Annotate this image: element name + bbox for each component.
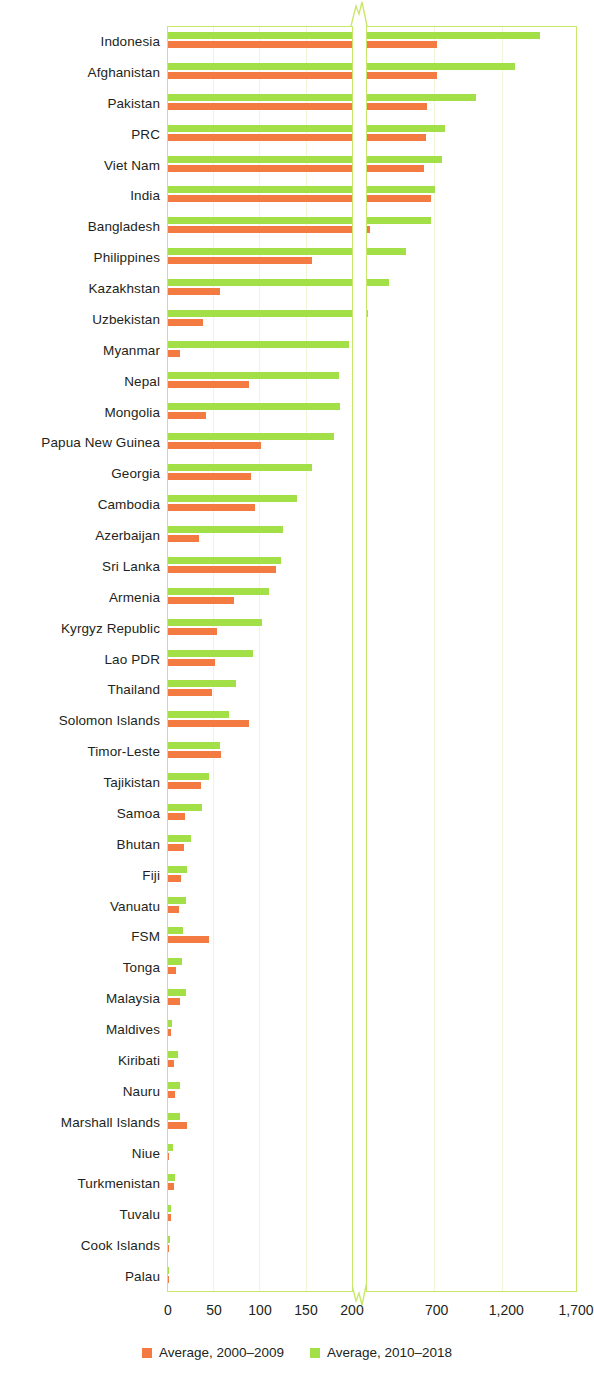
bar-series1 <box>367 103 427 110</box>
category-label: Timor-Leste <box>0 736 160 767</box>
bar-row <box>168 428 352 459</box>
category-axis-labels: IndonesiaAfghanistanPakistanPRCViet NamI… <box>0 26 160 1292</box>
bar-series2 <box>168 1051 178 1058</box>
bar-series2 <box>168 63 352 70</box>
bar-series2 <box>168 1174 175 1181</box>
legend-item: Average, 2010–2018 <box>310 1345 452 1360</box>
bar-series1 <box>168 257 312 264</box>
bar-row <box>367 521 576 552</box>
bar-row <box>367 1231 576 1262</box>
bar-series2 <box>168 680 236 687</box>
category-label: Uzbekistan <box>0 304 160 335</box>
bar-series1 <box>168 844 184 851</box>
legend-label: Average, 2010–2018 <box>327 1345 452 1360</box>
bar-row <box>168 151 352 182</box>
bar-series1 <box>168 412 206 419</box>
bar-row <box>367 151 576 182</box>
bar-series2 <box>168 495 297 502</box>
bar-series1 <box>168 350 180 357</box>
bar-series2 <box>168 526 283 533</box>
category-label: Nepal <box>0 366 160 397</box>
bar-row <box>367 614 576 645</box>
category-label: Palau <box>0 1261 160 1292</box>
bar-series1 <box>168 319 203 326</box>
bar-series2 <box>168 897 186 904</box>
bar-row <box>168 861 352 892</box>
bar-series1 <box>168 41 352 48</box>
category-label: Philippines <box>0 242 160 273</box>
bar-row <box>168 1231 352 1262</box>
bar-series2 <box>168 1236 170 1243</box>
bar-series1 <box>168 103 352 110</box>
bar-row <box>168 1108 352 1139</box>
bar-row <box>168 1015 352 1046</box>
bar-series2 <box>168 1020 172 1027</box>
bar-row <box>168 583 352 614</box>
bar-row <box>367 1262 576 1291</box>
legend-swatch-icon <box>142 1348 152 1358</box>
axis-break-top-icon <box>348 0 370 26</box>
category-label: Georgia <box>0 458 160 489</box>
bar-row <box>168 645 352 676</box>
bar-row <box>168 922 352 953</box>
bar-series1 <box>168 689 212 696</box>
category-label: Indonesia <box>0 26 160 57</box>
category-label: Kyrgyz Republic <box>0 613 160 644</box>
bar-series1 <box>168 226 352 233</box>
bar-series1 <box>367 226 370 233</box>
bar-series1 <box>168 875 181 882</box>
bar-series1 <box>367 41 437 48</box>
x-tick-label: 1,700 <box>558 1300 593 1320</box>
bar-series2 <box>168 310 352 317</box>
plot-panel-right <box>366 26 577 1292</box>
bar-series2 <box>367 125 445 132</box>
category-label: Marshall Islands <box>0 1107 160 1138</box>
bar-series1 <box>168 720 249 727</box>
category-label: Tonga <box>0 952 160 983</box>
category-label: Bhutan <box>0 829 160 860</box>
bar-series1 <box>168 288 220 295</box>
bar-series2 <box>168 1144 173 1151</box>
bar-row <box>367 984 576 1015</box>
category-label: Maldives <box>0 1014 160 1045</box>
bar-row <box>168 1200 352 1231</box>
bar-series2 <box>168 464 312 471</box>
bar-row <box>168 984 352 1015</box>
bar-series1 <box>168 1122 187 1129</box>
bar-row <box>367 89 576 120</box>
bar-series1 <box>168 1153 169 1160</box>
bar-row <box>367 367 576 398</box>
bar-row <box>367 120 576 151</box>
bar-series2 <box>168 866 187 873</box>
bar-row <box>168 120 352 151</box>
category-label: FSM <box>0 921 160 952</box>
bar-row <box>367 799 576 830</box>
category-label: Lao PDR <box>0 644 160 675</box>
category-label: Nauru <box>0 1076 160 1107</box>
bar-row <box>168 953 352 984</box>
bar-row <box>367 27 576 58</box>
bar-series2 <box>168 32 352 39</box>
bar-row <box>168 459 352 490</box>
bars-right-panel <box>367 27 576 1291</box>
bar-series1 <box>168 597 234 604</box>
bar-row <box>367 212 576 243</box>
bar-series2 <box>168 804 202 811</box>
bar-series2 <box>168 341 349 348</box>
bar-series2 <box>168 711 229 718</box>
bar-row <box>367 892 576 923</box>
bar-series2 <box>168 927 183 934</box>
bar-row <box>168 89 352 120</box>
bar-row <box>168 706 352 737</box>
category-label: Cambodia <box>0 489 160 520</box>
bar-chart: IndonesiaAfghanistanPakistanPRCViet NamI… <box>0 0 594 1377</box>
bar-series2 <box>168 958 182 965</box>
bar-series2 <box>168 1082 180 1089</box>
category-label: Solomon Islands <box>0 705 160 736</box>
bar-series2 <box>168 125 352 132</box>
plot-panel-left <box>167 26 353 1292</box>
legend-label: Average, 2000–2009 <box>159 1345 284 1360</box>
bar-series1 <box>168 473 251 480</box>
bar-series2 <box>168 403 340 410</box>
bar-row <box>367 861 576 892</box>
